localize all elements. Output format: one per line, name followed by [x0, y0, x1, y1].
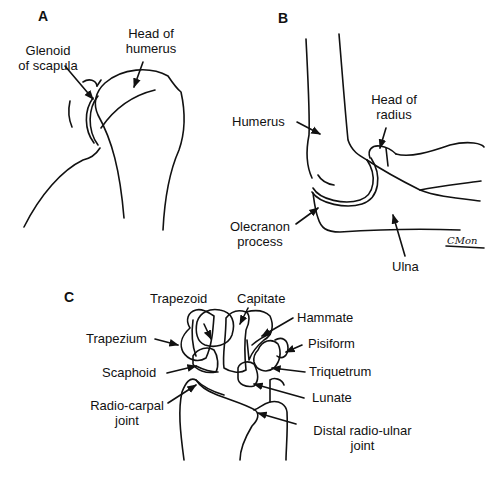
leader-triquetrum — [272, 368, 305, 372]
label-distal-radio-ulnar-joint: Distal radio-ulnar joint — [300, 423, 425, 453]
label-radio-carpal-joint: Radio-carpal joint — [82, 398, 172, 428]
leader-ulna — [393, 215, 405, 256]
leader-radio-carpal — [168, 385, 196, 403]
panel-title-b: B — [278, 10, 288, 26]
leader-trapezoid — [204, 324, 211, 339]
label-head-of-humerus: Head of humerus — [116, 26, 186, 56]
shoulder-drawing — [24, 70, 184, 230]
leader-distal-radio-ulnar — [258, 413, 296, 424]
leader-scaphoid — [167, 366, 196, 373]
artist-signature: CMon — [447, 235, 477, 246]
leader-olecranon — [296, 208, 318, 224]
panel-title-c: C — [64, 289, 74, 305]
label-ulna: Ulna — [392, 259, 419, 274]
leader-lunate — [254, 384, 304, 398]
leader-head-radius — [380, 128, 386, 148]
leader-head-humerus — [134, 62, 143, 87]
elbow-drawing — [306, 34, 484, 232]
label-glenoid-of-scapula: Glenoid of scapula — [8, 43, 88, 73]
label-head-of-radius: Head of radius — [364, 92, 424, 122]
label-humerus: Humerus — [232, 114, 285, 129]
panel-title-a: A — [38, 8, 48, 24]
leader-hammate — [262, 318, 293, 336]
leader-trapezium — [155, 339, 178, 345]
label-scaphoid: Scaphoid — [102, 365, 156, 380]
label-pisiform: Pisiform — [308, 336, 355, 351]
label-triquetrum: Triquetrum — [309, 364, 371, 379]
label-trapezium: Trapezium — [86, 331, 147, 346]
label-olecranon-process: Olecranon process — [222, 219, 298, 249]
signature-line — [446, 246, 484, 248]
label-lunate: Lunate — [312, 390, 352, 405]
label-hammate: Hammate — [297, 310, 353, 325]
label-capitate: Capitate — [237, 291, 285, 306]
label-trapezoid: Trapezoid — [150, 291, 207, 306]
